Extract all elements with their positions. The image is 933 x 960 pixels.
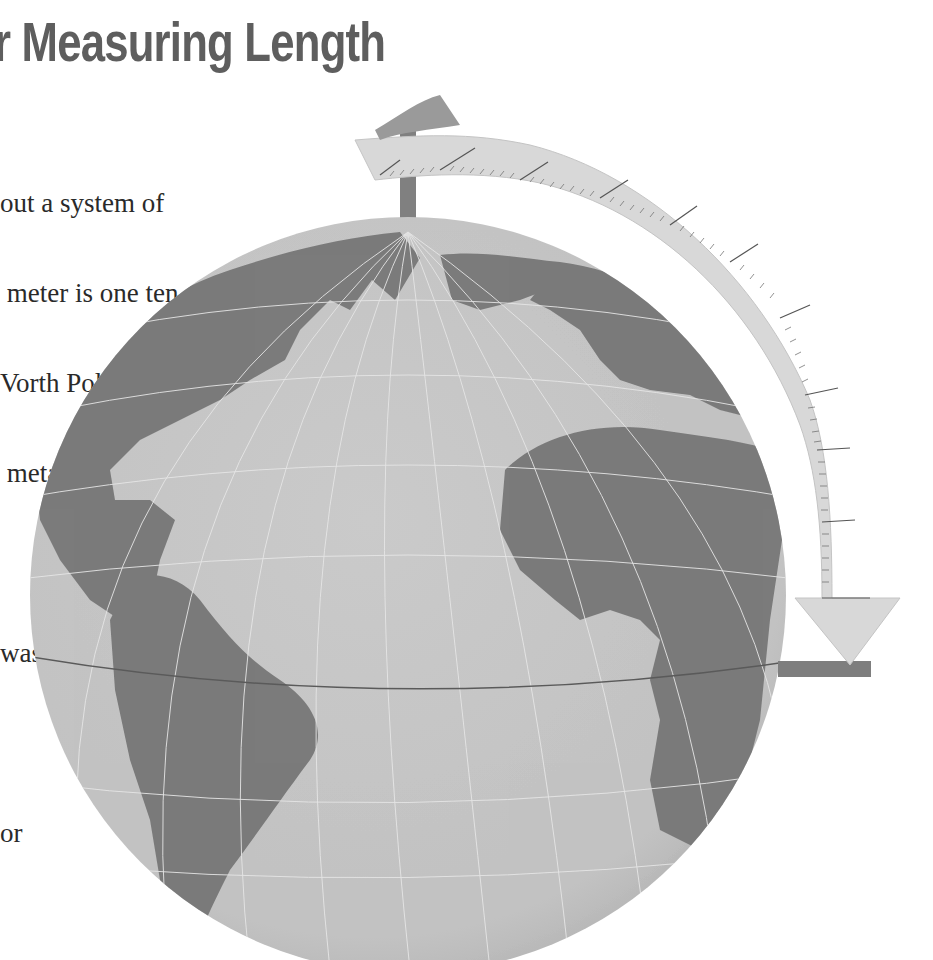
tape-end-tab (375, 95, 460, 140)
globe-illustration (0, 0, 933, 960)
globe (10, 217, 806, 960)
equator-marker-bar (778, 661, 871, 677)
